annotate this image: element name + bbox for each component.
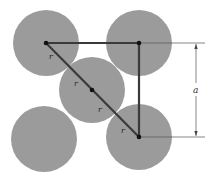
center-dot-top-left — [44, 41, 49, 46]
arrow-up-icon — [194, 44, 197, 49]
atom-packing-diagram: r r r r a — [0, 0, 214, 178]
arrow-down-icon — [194, 131, 197, 136]
center-dot-top-right — [137, 41, 142, 46]
atom-bottom-left — [11, 106, 77, 172]
dimension-label-a: a — [193, 85, 198, 95]
center-dot-bottom-right — [137, 135, 142, 140]
center-dot-center — [90, 88, 95, 93]
